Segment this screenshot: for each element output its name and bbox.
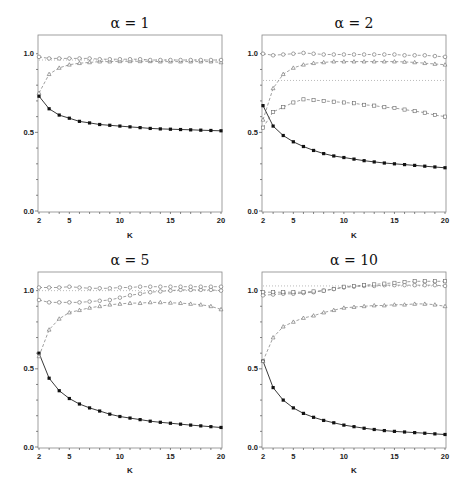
y-tick-label: 0.0 bbox=[248, 443, 258, 452]
data-point bbox=[413, 60, 417, 63]
data-point bbox=[272, 124, 275, 127]
data-point bbox=[423, 165, 426, 168]
data-point bbox=[393, 162, 396, 165]
data-point bbox=[373, 283, 376, 286]
series-line bbox=[39, 302, 221, 356]
data-point bbox=[292, 101, 295, 104]
data-point bbox=[292, 406, 295, 409]
data-point bbox=[363, 103, 366, 106]
data-point bbox=[383, 282, 386, 285]
x-tick-label: 2 bbox=[261, 216, 265, 225]
data-point bbox=[68, 301, 72, 305]
data-point bbox=[88, 406, 91, 409]
x-tick-label: 2 bbox=[37, 216, 41, 225]
data-point bbox=[433, 280, 436, 283]
data-point bbox=[108, 298, 112, 302]
data-point bbox=[403, 54, 407, 58]
data-point bbox=[363, 427, 366, 430]
data-point bbox=[261, 291, 264, 294]
data-point bbox=[118, 296, 122, 300]
data-point bbox=[423, 432, 426, 435]
data-point bbox=[322, 311, 326, 314]
data-point bbox=[383, 106, 386, 109]
data-point bbox=[57, 57, 61, 61]
y-tick-label: 1.0 bbox=[248, 286, 258, 295]
y-tick-label: 0.5 bbox=[248, 128, 258, 137]
x-tick-label: 5 bbox=[291, 216, 295, 225]
data-point bbox=[403, 108, 406, 111]
data-point bbox=[98, 409, 101, 412]
data-point bbox=[58, 389, 61, 392]
data-point bbox=[403, 163, 406, 166]
data-point bbox=[413, 164, 416, 167]
data-point bbox=[383, 429, 386, 432]
data-point bbox=[282, 106, 285, 109]
data-point bbox=[302, 63, 306, 66]
data-point bbox=[352, 53, 356, 57]
data-point bbox=[292, 291, 295, 294]
data-point bbox=[179, 58, 183, 62]
data-point bbox=[57, 317, 61, 320]
data-point bbox=[363, 284, 366, 287]
data-point bbox=[148, 290, 152, 294]
data-point bbox=[322, 53, 326, 57]
data-point bbox=[413, 54, 417, 58]
data-point bbox=[98, 123, 101, 126]
data-point bbox=[352, 102, 355, 105]
data-point bbox=[169, 128, 172, 131]
panel-alpha-2: α = 2 K 0.00.51.025101520 bbox=[248, 15, 450, 240]
data-point bbox=[352, 284, 355, 287]
data-point bbox=[373, 104, 376, 107]
x-axis-label: K bbox=[351, 231, 357, 240]
x-tick-label: 2 bbox=[261, 452, 265, 461]
x-tick-label: 10 bbox=[116, 216, 124, 225]
data-point bbox=[352, 425, 355, 428]
panel-title: α = 1 bbox=[111, 15, 150, 31]
data-point bbox=[423, 283, 427, 287]
data-point bbox=[78, 301, 82, 305]
data-point bbox=[372, 53, 376, 57]
data-point bbox=[362, 53, 366, 57]
data-point bbox=[342, 53, 346, 57]
data-point bbox=[312, 416, 315, 419]
data-point bbox=[373, 428, 376, 431]
data-point bbox=[138, 57, 142, 61]
data-point bbox=[302, 98, 305, 101]
data-point bbox=[68, 285, 72, 289]
x-tick-label: 10 bbox=[340, 452, 348, 461]
panel-title: α = 5 bbox=[111, 252, 150, 268]
x-axis-label: K bbox=[351, 466, 357, 475]
y-tick-label: 0.0 bbox=[24, 443, 34, 452]
data-point bbox=[302, 51, 306, 55]
data-point bbox=[292, 52, 296, 56]
data-point bbox=[403, 280, 406, 283]
data-point bbox=[128, 125, 131, 128]
data-point bbox=[443, 433, 446, 436]
data-point bbox=[48, 377, 51, 380]
y-tick-label: 0.5 bbox=[24, 128, 34, 137]
data-point bbox=[373, 160, 376, 163]
data-point bbox=[302, 316, 306, 319]
data-point bbox=[148, 285, 152, 289]
data-point bbox=[363, 159, 366, 162]
series-line bbox=[263, 62, 445, 120]
data-point bbox=[433, 283, 437, 287]
data-point bbox=[272, 386, 275, 389]
x-tick-label: 15 bbox=[390, 452, 398, 461]
data-point bbox=[128, 301, 132, 304]
data-point bbox=[148, 300, 152, 303]
panel-title: α = 10 bbox=[330, 252, 378, 268]
x-tick-label: 10 bbox=[116, 452, 124, 461]
panel-alpha-1: α = 1 K 0.00.51.025101520 bbox=[24, 15, 226, 240]
panel-alpha-5: α = 5 K 0.00.51.025101520 bbox=[24, 252, 226, 475]
data-point bbox=[393, 281, 396, 284]
y-tick-label: 1.0 bbox=[248, 49, 258, 58]
data-point bbox=[88, 121, 91, 124]
data-point bbox=[108, 124, 111, 127]
data-point bbox=[88, 300, 92, 304]
data-point bbox=[413, 283, 417, 287]
data-point bbox=[393, 53, 397, 57]
data-point bbox=[332, 53, 336, 57]
data-point bbox=[78, 286, 82, 290]
data-point bbox=[322, 99, 325, 102]
